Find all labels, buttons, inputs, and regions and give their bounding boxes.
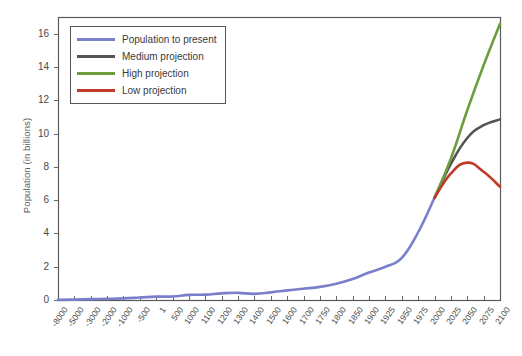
chart-legend: Population to presentMedium projectionHi… (70, 26, 226, 104)
legend-label: Medium projection (122, 52, 204, 62)
legend-item: Low projection (77, 82, 217, 99)
population-projection-chart: Population (in billions) 0246810121416 -… (0, 0, 522, 356)
legend-item: High projection (77, 65, 217, 82)
series-line-high-projection (435, 24, 500, 198)
legend-swatch-icon (77, 38, 115, 41)
series-line-population-to-present (58, 198, 435, 300)
series-line-medium-projection (435, 119, 500, 197)
legend-label: Population to present (122, 35, 217, 45)
legend-item: Population to present (77, 31, 217, 48)
legend-label: Low projection (122, 86, 186, 96)
legend-swatch-icon (77, 55, 115, 58)
legend-label: High projection (122, 69, 189, 79)
legend-item: Medium projection (77, 48, 217, 65)
legend-swatch-icon (77, 72, 115, 75)
legend-swatch-icon (77, 89, 115, 92)
series-line-low-projection (435, 163, 500, 198)
